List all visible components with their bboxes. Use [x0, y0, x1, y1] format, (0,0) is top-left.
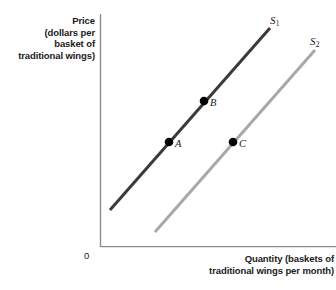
y-axis-title-line-2: (dollars per	[0, 27, 95, 39]
y-axis-title: Price (dollars per basket of traditional…	[0, 15, 95, 61]
y-axis-title-line-3: basket of	[0, 38, 95, 50]
point-label-c: C	[239, 138, 246, 149]
point-marker-b	[200, 97, 209, 106]
point-label-a: A	[175, 138, 181, 149]
point-marker-c	[229, 138, 238, 147]
curve-label-s1-subscript: 1	[276, 19, 280, 28]
x-axis-title-line-2: traditional wings per month)	[168, 265, 334, 277]
curve-label-s2-letter: S	[310, 35, 316, 47]
x-axis-title-line-1: Quantity (baskets of	[168, 253, 334, 265]
supply-curve-figure: Price (dollars per basket of traditional…	[0, 0, 336, 290]
supply-curve-s1	[110, 28, 270, 210]
point-label-b: B	[210, 97, 216, 108]
y-axis-title-line-1: Price	[0, 15, 95, 27]
y-axis-title-line-4: traditional wings)	[0, 50, 95, 62]
point-marker-a	[165, 138, 174, 147]
x-axis-title: Quantity (baskets of traditional wings p…	[168, 253, 334, 276]
curve-label-s1: S1	[270, 14, 279, 26]
curve-label-s1-letter: S	[270, 14, 276, 26]
curve-label-s2-subscript: 2	[316, 40, 320, 49]
curve-label-s2: S2	[310, 35, 319, 47]
origin-label: 0	[84, 250, 89, 261]
